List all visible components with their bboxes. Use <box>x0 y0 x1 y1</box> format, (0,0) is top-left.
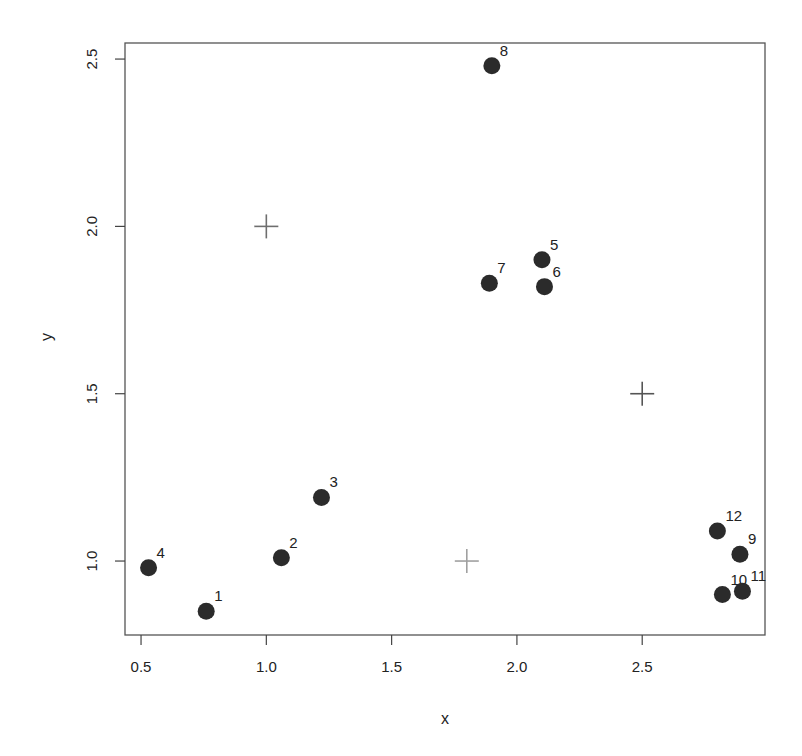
data-point: 2 <box>273 534 298 567</box>
y-tick-label: 1.0 <box>83 551 100 572</box>
point-label: 8 <box>500 42 508 59</box>
center-markers <box>254 214 654 573</box>
plus-icon <box>630 382 654 406</box>
x-tick-label: 2.0 <box>506 658 527 675</box>
x-axis: 0.51.01.52.02.5 <box>131 635 653 675</box>
point-label: 7 <box>497 259 505 276</box>
point-label: 6 <box>552 263 560 280</box>
point-marker <box>536 278 553 295</box>
point-marker <box>714 586 731 603</box>
y-tick-label: 2.5 <box>83 49 100 70</box>
data-point: 4 <box>140 544 165 577</box>
point-label: 11 <box>750 567 766 584</box>
x-tick-label: 1.0 <box>256 658 277 675</box>
point-label: 3 <box>329 473 337 490</box>
point-marker <box>273 549 290 566</box>
data-point: 3 <box>313 473 338 506</box>
data-point: 12 <box>709 507 742 540</box>
point-marker <box>140 559 157 576</box>
point-marker <box>198 603 215 620</box>
point-label: 2 <box>289 534 297 551</box>
point-marker <box>483 57 500 74</box>
point-label: 1 <box>214 587 222 604</box>
point-marker <box>734 583 751 600</box>
data-point: 1 <box>198 587 223 620</box>
plus-icon <box>455 549 479 573</box>
y-tick-label: 2.0 <box>83 216 100 237</box>
plus-icon <box>254 214 278 238</box>
point-label: 4 <box>157 544 165 561</box>
x-axis-title: x <box>441 710 449 727</box>
point-label: 5 <box>550 236 558 253</box>
x-tick-label: 1.5 <box>381 658 402 675</box>
scatter-plot: 0.51.01.52.02.5 1.01.52.02.5 12345678910… <box>0 0 802 756</box>
x-tick-label: 0.5 <box>131 658 152 675</box>
y-axis: 1.01.52.02.5 <box>83 49 125 572</box>
x-tick-label: 2.5 <box>632 658 653 675</box>
point-marker <box>731 546 748 563</box>
y-axis-title: y <box>38 333 55 341</box>
data-point: 9 <box>731 530 756 563</box>
point-marker <box>533 251 550 268</box>
data-points: 123456789101112 <box>140 42 766 620</box>
plot-frame <box>125 43 765 635</box>
point-marker <box>481 275 498 292</box>
data-point: 7 <box>481 259 506 292</box>
point-marker <box>313 489 330 506</box>
point-marker <box>709 522 726 539</box>
y-tick-label: 1.5 <box>83 383 100 404</box>
point-label: 9 <box>748 530 756 547</box>
point-label: 12 <box>725 507 742 524</box>
data-point: 8 <box>483 42 508 75</box>
